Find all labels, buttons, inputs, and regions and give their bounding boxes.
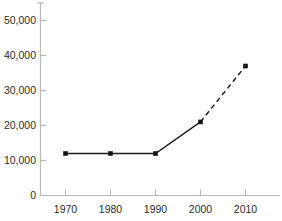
data-point-2000 — [198, 120, 203, 125]
chart-canvas: 50,000 40,000 30,000 20,000 10,000 0 197… — [0, 0, 282, 221]
x-tick-label-2000: 2000 — [189, 203, 213, 215]
series-projected-line — [201, 66, 246, 122]
y-axis — [37, 3, 44, 195]
data-point-2010 — [243, 64, 248, 69]
x-tick-marks — [66, 190, 246, 196]
x-tick-label-1990: 1990 — [144, 203, 168, 215]
series-projected — [201, 66, 246, 122]
y-tick-label-0: 0 — [30, 189, 36, 201]
x-tick-label-1970: 1970 — [54, 203, 78, 215]
series-actual-line — [66, 122, 201, 154]
series-actual — [66, 122, 201, 154]
y-tick-label-30000: 30,000 — [4, 84, 36, 96]
data-point-1970 — [63, 151, 68, 156]
x-tick-label-1980: 1980 — [99, 203, 123, 215]
y-tick-marks — [41, 21, 47, 196]
data-point-1980 — [108, 151, 113, 156]
x-tick-labels: 1970 1980 1990 2000 2010 — [54, 203, 258, 215]
x-tick-label-2010: 2010 — [234, 203, 258, 215]
data-point-1990 — [153, 151, 158, 156]
line-chart: 50,000 40,000 30,000 20,000 10,000 0 197… — [0, 0, 282, 221]
y-tick-label-10000: 10,000 — [4, 154, 36, 166]
y-tick-labels: 50,000 40,000 30,000 20,000 10,000 0 — [4, 14, 36, 201]
y-tick-label-50000: 50,000 — [4, 14, 36, 26]
data-point-markers — [63, 64, 248, 156]
y-tick-label-40000: 40,000 — [4, 49, 36, 61]
y-tick-label-20000: 20,000 — [4, 119, 36, 131]
